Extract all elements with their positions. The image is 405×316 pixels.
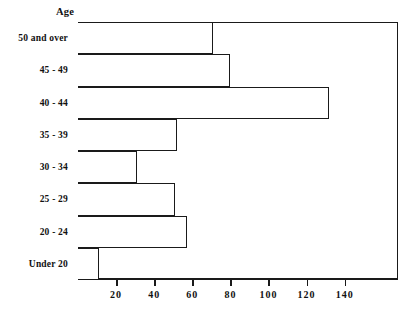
bar-chart: Age Under 2020 - 2425 - 2930 - 3435 - 39… xyxy=(0,0,405,316)
bar xyxy=(78,54,230,86)
bar xyxy=(78,248,99,280)
bar-row xyxy=(78,248,398,280)
y-axis-tick-label: 20 - 24 xyxy=(40,227,68,237)
y-axis-tick-label: 25 - 29 xyxy=(40,194,68,204)
y-axis-tick-label: 40 - 44 xyxy=(40,98,68,108)
x-axis-tick-label: 100 xyxy=(259,289,277,300)
bar xyxy=(78,87,329,119)
bar xyxy=(78,183,175,215)
bar xyxy=(78,119,177,151)
bars-layer xyxy=(78,22,398,280)
y-axis-tick-label: 30 - 34 xyxy=(40,162,68,172)
x-axis-tick xyxy=(230,280,232,286)
x-axis-tick xyxy=(154,280,156,286)
bar-row xyxy=(78,119,398,151)
bar-row xyxy=(78,54,398,86)
x-axis-tick-label: 140 xyxy=(336,289,354,300)
x-axis-tick xyxy=(116,280,118,286)
y-axis-tick-label: Under 20 xyxy=(29,259,68,269)
x-axis-tick xyxy=(192,280,194,286)
bar xyxy=(78,216,187,248)
y-axis-tick-labels: Under 2020 - 2425 - 2930 - 3435 - 3940 -… xyxy=(0,22,74,280)
x-axis-tick xyxy=(345,280,347,286)
bar-row xyxy=(78,22,398,54)
bar xyxy=(78,22,213,54)
bar-row xyxy=(78,183,398,215)
bar-row xyxy=(78,151,398,183)
y-axis-title: Age xyxy=(30,6,100,17)
y-axis-tick-label: 50 and over xyxy=(18,33,68,43)
y-axis-tick-label: 35 - 39 xyxy=(40,130,68,140)
bar-row xyxy=(78,87,398,119)
x-axis-tick-label: 40 xyxy=(148,289,160,300)
x-axis-tick-label: 20 xyxy=(110,289,122,300)
bar-row xyxy=(78,216,398,248)
x-axis-tick-label: 80 xyxy=(224,289,236,300)
x-axis-tick xyxy=(268,280,270,286)
bar xyxy=(78,151,137,183)
y-axis-tick-label: 45 - 49 xyxy=(40,65,68,75)
x-axis-tick-label: 60 xyxy=(186,289,198,300)
x-axis-ticks: 20406080100120140 xyxy=(78,280,398,316)
x-axis-tick-label: 120 xyxy=(298,289,316,300)
x-axis-tick xyxy=(307,280,309,286)
